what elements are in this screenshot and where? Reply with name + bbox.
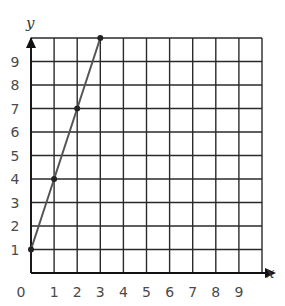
x-tick-label: 5 (142, 284, 151, 300)
y-tick-label: 3 (11, 195, 20, 211)
x-tick-label: 4 (119, 284, 128, 300)
data-point (51, 176, 57, 182)
x-tick-label: 9 (234, 284, 243, 300)
x-tick-label: 3 (96, 284, 105, 300)
tick-labels: 0123456789123456789 (11, 54, 244, 301)
y-tick-label: 9 (11, 54, 20, 70)
x-tick-label: 7 (188, 284, 197, 300)
y-tick-label: 4 (11, 171, 20, 187)
y-tick-label: 8 (11, 77, 20, 93)
y-axis-label: y (25, 14, 35, 32)
x-tick-label: 8 (211, 284, 220, 300)
x-tick-label: 2 (73, 284, 82, 300)
x-axis-label: x (266, 264, 275, 282)
data-point (97, 35, 103, 41)
y-tick-label: 5 (11, 148, 20, 164)
data-point (74, 106, 80, 112)
x-tick-label: 1 (50, 284, 59, 300)
chart: 0123456789123456789 x y (0, 0, 285, 306)
series-line (31, 38, 100, 250)
data-point (28, 247, 34, 253)
x-tick-label: 6 (165, 284, 174, 300)
x-tick-label: 0 (17, 284, 26, 300)
y-tick-label: 2 (11, 218, 20, 234)
grid (31, 38, 262, 273)
y-tick-label: 1 (11, 242, 20, 258)
y-tick-label: 6 (11, 124, 20, 140)
series (28, 35, 103, 253)
y-tick-label: 7 (11, 101, 20, 117)
